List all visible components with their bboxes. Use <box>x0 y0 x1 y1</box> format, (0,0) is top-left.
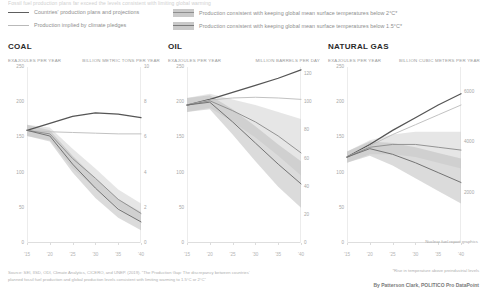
chart-panel-coal: COAL EXAJOULES PER YEAR BILLION METRIC T… <box>8 42 160 264</box>
axis-names: EXAJOULES PER YEAR MILLION BARRELS PER D… <box>168 58 320 67</box>
chart-panel-oil: OIL EXAJOULES PER YEAR MILLION BARRELS P… <box>168 42 320 264</box>
y-axis-label-right: BILLION CUBIC METERS PER YEAR <box>399 58 480 63</box>
x-tick-mark <box>278 243 279 245</box>
y-tick-label-left: 100 <box>328 170 344 175</box>
axis-names: EXAJOULES PER YEAR BILLION CUBIC METERS … <box>328 58 480 67</box>
y-tick-label-right: 40 <box>304 184 320 189</box>
y-tick-label-left: 250 <box>168 64 184 69</box>
x-tick-mark <box>210 243 211 245</box>
y-tick-label-right: 20 <box>304 212 320 217</box>
x-tick-label: '25 <box>390 252 396 257</box>
uncertainty-band <box>27 125 141 231</box>
chart-kicker: Fossil fuel production plans far exceed … <box>8 0 478 7</box>
y-tick-label-left: 150 <box>8 134 24 139</box>
x-tick-mark <box>118 243 119 245</box>
y-tick-label-right: 0 <box>304 240 320 245</box>
x-tick-mark <box>347 243 348 245</box>
x-tick-label: '40 <box>298 252 304 257</box>
x-tick-label: '20 <box>367 252 373 257</box>
y-tick-label-right: 2000 <box>464 190 480 195</box>
x-tick-mark <box>255 243 256 245</box>
legend-label: Production implied by climate pledges <box>34 22 126 28</box>
source-note: Source: SEI, IISD, ODI, Climate Analytic… <box>8 270 258 283</box>
x-tick-mark <box>301 243 302 245</box>
y-axis-label-right: MILLION BARRELS PER DAY <box>255 58 320 63</box>
x-tick-mark <box>393 243 394 245</box>
x-tick-mark <box>73 243 74 245</box>
x-tick-label: '15 <box>344 252 350 257</box>
panel-note: Nuclear fuel report graphics <box>425 239 478 244</box>
legend-label: Production consistent with keeping globa… <box>199 10 397 16</box>
x-tick-label: '40 <box>138 252 144 257</box>
y-tick-label-right: 60 <box>304 156 320 161</box>
x-tick-mark <box>187 243 188 245</box>
x-tick-label: '35 <box>435 252 441 257</box>
x-tick-label: '25 <box>230 252 236 257</box>
chart-panel-natural-gas: NATURAL GAS EXAJOULES PER YEAR BILLION C… <box>328 42 480 264</box>
x-tick-mark <box>370 243 371 245</box>
y-axis-label-left: EXAJOULES PER YEAR <box>168 58 221 63</box>
x-tick-mark <box>233 243 234 245</box>
axis-names: EXAJOULES PER YEAR BILLION METRIC TONS P… <box>8 58 160 67</box>
y-tick-label-left: 50 <box>168 205 184 210</box>
x-tick-label: '35 <box>275 252 281 257</box>
legend-label: Production consistent with keeping globa… <box>199 23 402 29</box>
legend-item-below15c: Production consistent with keeping globa… <box>173 22 402 30</box>
y-tick-label-left: 0 <box>8 240 24 245</box>
x-tick-label: '15 <box>24 252 30 257</box>
y-tick-label-left: 200 <box>8 99 24 104</box>
line-swatch-icon <box>8 12 29 13</box>
x-tick-label: '25 <box>70 252 76 257</box>
plot-area: 0501001502002500246810'15'20'25'30'35'40 <box>8 67 160 257</box>
y-axis-label-right: BILLION METRIC TONS PER YEAR <box>82 58 160 63</box>
y-axis-label-left: EXAJOULES PER YEAR <box>328 58 381 63</box>
y-tick-label-left: 0 <box>168 240 184 245</box>
y-tick-label-left: 50 <box>8 205 24 210</box>
y-tick-label-left: 0 <box>328 240 344 245</box>
y-tick-label-right: 80 <box>304 127 320 132</box>
x-tick-label: '30 <box>92 252 98 257</box>
y-tick-label-right: 4000 <box>464 139 480 144</box>
panel-title: OIL <box>168 42 320 51</box>
plot-area: 050100150200250020406080100120'15'20'25'… <box>168 67 320 257</box>
y-tick-label-left: 50 <box>328 205 344 210</box>
y-tick-label-left: 250 <box>8 64 24 69</box>
y-tick-label-right: 100 <box>304 99 320 104</box>
panel-title: NATURAL GAS <box>328 42 480 51</box>
x-tick-label: '20 <box>47 252 53 257</box>
y-tick-label-right: 6000 <box>464 89 480 94</box>
y-tick-label-left: 150 <box>168 134 184 139</box>
x-tick-mark <box>50 243 51 245</box>
x-tick-label: '20 <box>207 252 213 257</box>
x-tick-mark <box>141 243 142 245</box>
line-swatch-icon <box>8 25 29 26</box>
x-tick-mark <box>95 243 96 245</box>
y-tick-label-left: 200 <box>328 99 344 104</box>
y-tick-label-left: 100 <box>168 170 184 175</box>
x-tick-mark <box>415 243 416 245</box>
y-tick-label-left: 250 <box>328 64 344 69</box>
y-tick-label-left: 150 <box>328 134 344 139</box>
y-tick-label-right: 0 <box>144 240 160 245</box>
plot-area: 050100150200250200040006000'15'20'25'30'… <box>328 67 480 257</box>
x-tick-label: '35 <box>115 252 121 257</box>
y-tick-label-right: 4 <box>144 170 160 175</box>
footnote: *Rise in temperature above preindustrial… <box>392 268 479 273</box>
legend-item-below2c: Production consistent with keeping globa… <box>173 9 397 17</box>
series-canvas <box>347 67 461 243</box>
y-tick-label-right: 2 <box>144 205 160 210</box>
y-tick-label-left: 100 <box>8 170 24 175</box>
series-canvas <box>27 67 141 243</box>
x-tick-mark <box>27 243 28 245</box>
y-tick-label-left: 200 <box>168 99 184 104</box>
chart-legend: Countries' production plans and projecti… <box>8 9 480 35</box>
series-canvas <box>187 67 301 243</box>
legend-label: Countries' production plans and projecti… <box>34 9 139 15</box>
x-tick-label: '40 <box>458 252 464 257</box>
y-tick-label-right: 6 <box>144 134 160 139</box>
panel-title: COAL <box>8 42 160 51</box>
band-swatch-icon <box>173 22 194 30</box>
x-tick-label: '30 <box>412 252 418 257</box>
y-tick-label-right: 10 <box>144 64 160 69</box>
x-tick-label: '30 <box>252 252 258 257</box>
